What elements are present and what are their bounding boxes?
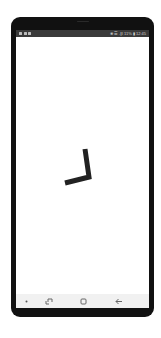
- image-icon: [24, 32, 27, 36]
- nav-dot[interactable]: [22, 294, 30, 308]
- back-arrow-icon: [115, 298, 123, 305]
- status-bar: ❀ ☰ .∥l 11% ▮ 12:45: [16, 30, 149, 37]
- dot-icon: [25, 300, 28, 303]
- back-button[interactable]: [113, 294, 125, 308]
- screen: ❀ ☰ .∥l 11% ▮ 12:45: [16, 30, 149, 308]
- app-content[interactable]: [16, 37, 149, 295]
- status-right-info: ❀ ☰ .∥l 11% ▮ 12:45: [110, 30, 146, 37]
- speaker-grille: [77, 21, 89, 22]
- warning-icon: [19, 32, 22, 36]
- phone-frame: ❀ ☰ .∥l 11% ▮ 12:45: [11, 17, 154, 317]
- recent-apps-icon: [45, 298, 53, 305]
- status-left-icons: [19, 32, 31, 36]
- home-button[interactable]: [77, 294, 89, 308]
- navigation-bar: [16, 294, 149, 308]
- notification-icon: [28, 32, 31, 36]
- home-icon: [80, 298, 87, 305]
- recent-apps-button[interactable]: [43, 294, 55, 308]
- clock-hands-icon: [61, 147, 97, 189]
